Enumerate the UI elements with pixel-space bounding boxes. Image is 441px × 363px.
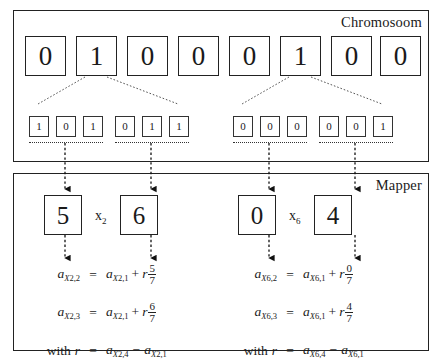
equation-row-x6-1: aX6,2 = aX6,1+r07 bbox=[225, 262, 364, 288]
chromosome-panel-label: Chromosoom bbox=[341, 14, 422, 31]
bit-box-a4[interactable]: 1 bbox=[142, 116, 162, 137]
with-r-equals-x2: = bbox=[80, 344, 106, 358]
chromosome-panel: Chromosoom 0 1 0 0 0 1 0 0 1 0 1 0 1 1 0… bbox=[13, 10, 429, 162]
bit-box-b4[interactable]: 0 bbox=[346, 116, 366, 137]
gene-box-5[interactable]: 1 bbox=[280, 36, 321, 76]
equation-lhs-x2-2: aX2,3 bbox=[28, 305, 80, 320]
equation-block-x2: aX2,2 = aX2,1+r57 aX2,3 = aX2,1+r67 with… bbox=[28, 262, 167, 363]
bit-box-b5[interactable]: 1 bbox=[373, 116, 393, 137]
equation-rhs-x6-2: aX6,1+r47 bbox=[303, 301, 353, 325]
equation-block-x6: aX6,2 = aX6,1+r07 aX6,3 = aX6,1+r47 with… bbox=[225, 262, 364, 363]
gene-box-6[interactable]: 0 bbox=[331, 36, 372, 76]
equation-row-x6-with-r: withr = aX6,4−aX6,1 bbox=[225, 338, 364, 363]
chromosome-gene-row: 0 1 0 0 0 1 0 0 bbox=[14, 36, 430, 78]
bit-box-a0[interactable]: 1 bbox=[29, 116, 49, 137]
mapper-variable-label-x6: x6 bbox=[289, 208, 301, 226]
bit-box-a3[interactable]: 0 bbox=[115, 116, 135, 137]
equation-row-x2-2: aX2,3 = aX2,1+r67 bbox=[28, 300, 167, 326]
mapper-variable-name-x2: x bbox=[95, 208, 102, 223]
fraction-x2-1: 57 bbox=[148, 263, 156, 287]
gene-box-0[interactable]: 0 bbox=[25, 36, 66, 76]
mapper-value-box-x6-right[interactable]: 4 bbox=[314, 195, 352, 235]
expanded-bit-row: 1 0 1 0 1 1 0 0 0 0 0 1 bbox=[14, 116, 430, 138]
equation-rhs-x2-1: aX2,1+r57 bbox=[106, 263, 156, 287]
gene-box-1[interactable]: 1 bbox=[76, 36, 117, 76]
with-r-rhs-x2: aX2,4−aX2,1 bbox=[106, 343, 167, 358]
mapper-variable-sub-x6: 6 bbox=[296, 216, 301, 226]
gene-box-2[interactable]: 0 bbox=[127, 36, 168, 76]
with-r-equals-x6: = bbox=[277, 344, 303, 358]
mapper-variable-label-x2: x2 bbox=[95, 208, 107, 226]
bit-box-a5[interactable]: 1 bbox=[169, 116, 189, 137]
mapper-value-box-x2-left[interactable]: 5 bbox=[44, 195, 82, 235]
bit-box-a1[interactable]: 0 bbox=[56, 116, 76, 137]
mapper-variable-name-x6: x bbox=[289, 208, 296, 223]
bit-box-b2[interactable]: 0 bbox=[287, 116, 307, 137]
with-r-rhs-x6: aX6,4−aX6,1 bbox=[303, 343, 364, 358]
equation-equals-x2-1: = bbox=[80, 268, 106, 282]
with-r-lhs-x6: withr bbox=[225, 344, 277, 358]
mapper-panel: Mapper 5 x2 6 0 x6 4 aX2,2 = aX2,1+r57 a… bbox=[13, 173, 429, 351]
mapper-variable-sub-x2: 2 bbox=[102, 216, 107, 226]
equation-row-x2-1: aX2,2 = aX2,1+r57 bbox=[28, 262, 167, 288]
bit-box-b0[interactable]: 0 bbox=[233, 116, 253, 137]
bit-box-a2[interactable]: 1 bbox=[83, 116, 103, 137]
bit-group-brace-a0 bbox=[29, 142, 103, 143]
fraction-x6-2: 47 bbox=[345, 301, 353, 325]
equation-lhs-x2-1: aX2,2 bbox=[28, 267, 80, 282]
gene-box-3[interactable]: 0 bbox=[178, 36, 219, 76]
fraction-x6-1: 07 bbox=[345, 263, 353, 287]
equation-equals-x6-1: = bbox=[277, 268, 303, 282]
bit-box-b1[interactable]: 0 bbox=[260, 116, 280, 137]
equation-lhs-x6-2: aX6,3 bbox=[225, 305, 277, 320]
mapper-value-box-x2-right[interactable]: 6 bbox=[120, 195, 158, 235]
mapper-value-box-x6-left[interactable]: 0 bbox=[238, 195, 276, 235]
equation-rhs-x2-2: aX2,1+r67 bbox=[106, 301, 156, 325]
equation-lhs-x6-1: aX6,2 bbox=[225, 267, 277, 282]
gene-box-7[interactable]: 0 bbox=[380, 36, 421, 76]
equation-row-x6-2: aX6,3 = aX6,1+r47 bbox=[225, 300, 364, 326]
equation-equals-x2-2: = bbox=[80, 306, 106, 320]
fraction-x2-2: 67 bbox=[148, 301, 156, 325]
with-r-lhs-x2: withr bbox=[28, 344, 80, 358]
bit-box-b3[interactable]: 0 bbox=[319, 116, 339, 137]
equation-rhs-x6-1: aX6,1+r07 bbox=[303, 263, 353, 287]
equation-row-x2-with-r: withr = aX2,4−aX2,1 bbox=[28, 338, 167, 363]
mapper-panel-label: Mapper bbox=[376, 177, 422, 194]
equation-equals-x6-2: = bbox=[277, 306, 303, 320]
gene-box-4[interactable]: 0 bbox=[229, 36, 270, 76]
bit-group-brace-b0 bbox=[233, 142, 307, 143]
bit-group-brace-a1 bbox=[115, 142, 189, 143]
bit-group-brace-b1 bbox=[319, 142, 393, 143]
